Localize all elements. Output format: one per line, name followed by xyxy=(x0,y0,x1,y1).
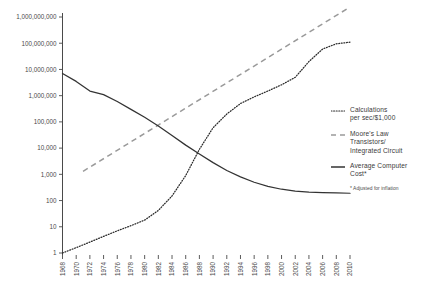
dotted-line-swatch xyxy=(331,109,345,118)
x-tick-label: 1988 xyxy=(196,262,203,277)
legend-item-moores-law: Moore's Law Transistors/ Integrated Circ… xyxy=(331,130,425,155)
chart-series-line xyxy=(83,7,350,171)
solid-line-swatch xyxy=(331,165,345,174)
x-tick-label: 2008 xyxy=(333,262,340,277)
x-tick-label: 1968 xyxy=(59,262,66,277)
legend-item-average-cost: Average Computer Cost* xyxy=(331,162,425,179)
legend-item-average-cost-label: Average Computer Cost* xyxy=(350,162,407,179)
x-tick-label: 1976 xyxy=(114,262,121,277)
x-tick-label: 2006 xyxy=(319,262,326,277)
legend-line: Average Computer xyxy=(350,162,407,170)
y-axis: 1,000,000,000100,000,00010,000,0001,000,… xyxy=(16,13,62,256)
x-tick-label: 1996 xyxy=(251,262,258,277)
x-tick-label: 1990 xyxy=(209,262,216,277)
x-tick-label: 2004 xyxy=(305,262,312,277)
x-tick-label: 2002 xyxy=(292,262,299,277)
y-tick-label: 100,000 xyxy=(34,118,57,125)
y-tick-label: 100 xyxy=(46,197,57,204)
y-tick-label: 1,000 xyxy=(41,171,57,178)
y-tick-label: 10 xyxy=(49,223,57,230)
dashed-line-swatch xyxy=(331,133,345,142)
y-tick-label: 100,000,000 xyxy=(21,40,57,47)
x-axis-tick-labels: 1968197019721974197619781980198219841986… xyxy=(59,262,354,277)
x-tick-label: 1992 xyxy=(223,262,230,277)
x-tick-label: 1978 xyxy=(127,262,134,277)
x-tick-label: 1980 xyxy=(141,262,148,277)
x-tick-label: 1994 xyxy=(237,262,244,277)
x-axis-ticks xyxy=(63,255,351,259)
x-axis: 1968197019721974197619781980198219841986… xyxy=(59,255,354,276)
chart-series-line xyxy=(63,42,351,253)
legend-line: Calculations xyxy=(350,106,395,114)
legend-line: Integrated Circuit xyxy=(350,147,403,155)
x-tick-label: 2010 xyxy=(346,262,353,277)
chart-series-line xyxy=(63,74,351,194)
legend-line: Moore's Law xyxy=(350,130,403,138)
y-axis-ticks xyxy=(59,17,63,253)
y-tick-label: 10,000 xyxy=(37,144,57,151)
legend-line: Transistors/ xyxy=(350,138,403,146)
legend-line: per sec/$1,000 xyxy=(350,114,395,122)
chart-legend: Calculations per sec/$1,000 Moore's Law … xyxy=(331,106,425,191)
y-axis-tick-labels: 1,000,000,000100,000,00010,000,0001,000,… xyxy=(16,13,57,256)
legend-footnote: * Adjusted for inflation xyxy=(350,186,425,191)
x-tick-label: 1986 xyxy=(182,262,189,277)
y-tick-label: 1 xyxy=(53,249,57,256)
x-tick-label: 1982 xyxy=(155,262,162,277)
legend-item-calculations-label: Calculations per sec/$1,000 xyxy=(350,106,395,123)
x-tick-label: 1970 xyxy=(73,262,80,277)
chart-series-layer xyxy=(63,7,351,253)
legend-line: Cost* xyxy=(350,170,407,178)
x-tick-label: 2000 xyxy=(278,262,285,277)
x-tick-label: 1998 xyxy=(264,262,271,277)
y-tick-label: 10,000,000 xyxy=(25,66,57,73)
y-tick-label: 1,000,000 xyxy=(28,92,57,99)
chart-container: 1,000,000,000100,000,00010,000,0001,000,… xyxy=(0,0,425,293)
legend-item-calculations: Calculations per sec/$1,000 xyxy=(331,106,425,123)
x-tick-label: 1984 xyxy=(168,262,175,277)
y-tick-label: 1,000,000,000 xyxy=(16,13,57,20)
x-tick-label: 1972 xyxy=(86,262,93,277)
legend-item-moores-law-label: Moore's Law Transistors/ Integrated Circ… xyxy=(350,130,403,155)
x-tick-label: 1974 xyxy=(100,262,107,277)
